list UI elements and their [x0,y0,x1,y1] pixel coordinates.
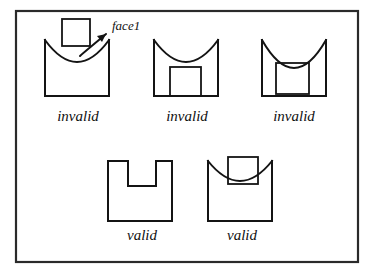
figure-frame [16,11,358,262]
shape-1-body-outline [45,40,109,96]
shape-1-inner-square [62,19,90,46]
shape-4-group: valid [108,161,172,243]
figure-container: invalid invalid invalid valid valid [0,0,369,273]
shape-2-concave-arc [154,40,218,62]
shape-4-caption: valid [127,227,157,243]
shape-5-concave-arc [208,161,272,181]
shape-1-group: invalid [45,19,109,124]
shape-1-concave-arc [45,40,109,62]
shape-5-caption: valid [227,227,257,243]
face1-annotation-group: face1 [80,18,140,56]
face1-label: face1 [112,18,140,33]
shape-2-body-outline [154,40,218,96]
figure-canvas: invalid invalid invalid valid valid [0,0,369,273]
shape-2-inner-square [170,67,201,96]
shape-5-group: valid [208,157,272,243]
shape-3-group: invalid [262,40,326,124]
shape-2-caption: invalid [166,108,208,124]
shape-4-notched-outline [108,161,172,221]
shape-2-group: invalid [154,40,218,124]
shape-3-caption: invalid [273,108,315,124]
shape-1-caption: invalid [57,108,99,124]
